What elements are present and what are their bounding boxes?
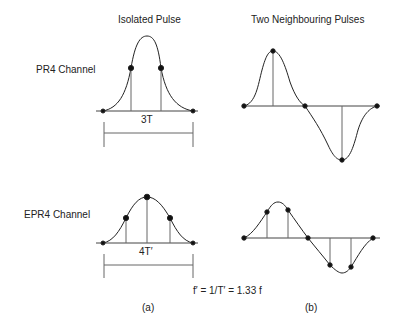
pr4-two-pulses <box>242 49 380 162</box>
pulse-diagram <box>0 0 401 328</box>
pr4-isolated-pulse <box>96 36 198 147</box>
epr4-two-pulses <box>242 202 380 273</box>
epr4-isolated-pulse <box>96 194 198 278</box>
